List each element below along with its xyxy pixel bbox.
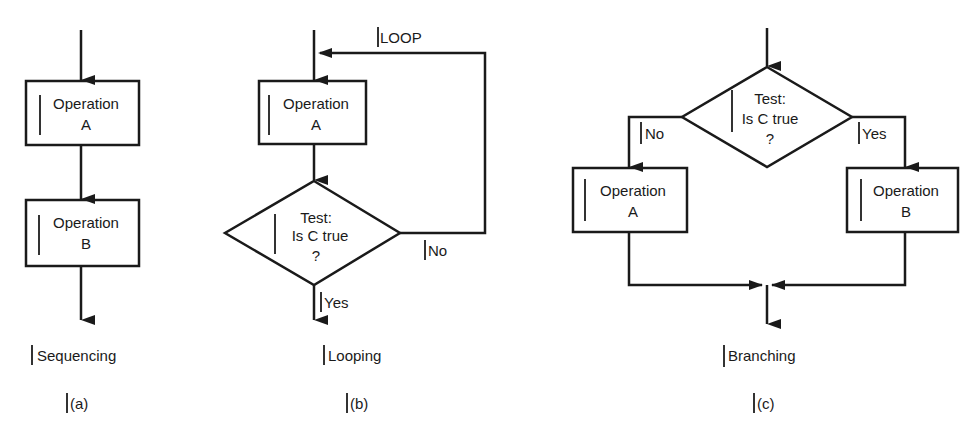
box-a1 — [26, 81, 139, 145]
text-mark — [346, 393, 348, 413]
box-c-right-line2: B — [857, 202, 955, 221]
text-mark — [858, 122, 860, 144]
test-c-line1: Test: — [722, 89, 818, 108]
box-c-right-line1: Operation — [857, 181, 955, 200]
box-c-left-line1: Operation — [585, 181, 681, 200]
test-b-line2: Is C true — [272, 226, 368, 245]
box-c-right — [847, 168, 958, 232]
text-mark — [320, 292, 322, 312]
test-c-line2: Is C true — [722, 109, 818, 128]
test-c-line3: ? — [722, 129, 818, 148]
caption-branching: Branching — [728, 346, 796, 365]
no-label-c: No — [645, 124, 664, 143]
yes-label-b: Yes — [324, 293, 348, 312]
text-mark — [753, 393, 755, 413]
text-mark — [377, 27, 379, 47]
box-b1-line2: A — [268, 115, 364, 134]
text-mark — [323, 345, 325, 365]
box-c-left — [573, 168, 687, 232]
loop-label: LOOP — [380, 28, 422, 47]
box-b1-line1: Operation — [268, 94, 364, 113]
text-mark — [66, 393, 68, 413]
caption-sequencing: Sequencing — [37, 346, 116, 365]
caption-looping: Looping — [328, 346, 381, 365]
box-a2-line1: Operation — [40, 213, 132, 232]
box-c-left-line2: A — [585, 202, 681, 221]
yes-label-c: Yes — [862, 124, 886, 143]
text-mark — [424, 240, 426, 260]
flowchart-canvas — [0, 0, 976, 428]
no-label-b: No — [428, 241, 447, 260]
box-a1-line1: Operation — [40, 94, 132, 113]
test-b-line1: Test: — [268, 208, 364, 227]
text-mark — [640, 122, 642, 144]
box-a2 — [26, 200, 139, 266]
label-c: (c) — [757, 394, 775, 413]
text-mark — [31, 345, 33, 365]
box-a2-line2: B — [40, 234, 132, 253]
text-mark — [723, 345, 725, 367]
test-b-line3: ? — [268, 246, 364, 265]
label-b: (b) — [350, 394, 368, 413]
label-a: (a) — [70, 394, 88, 413]
box-a1-line2: A — [40, 115, 132, 134]
